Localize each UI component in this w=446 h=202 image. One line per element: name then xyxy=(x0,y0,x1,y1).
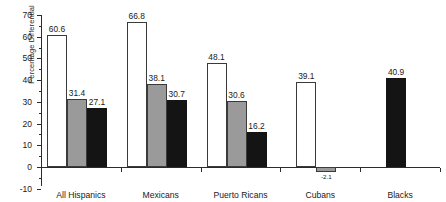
bar-value-label: -2.1 xyxy=(321,173,332,180)
bar-value-label: 66.8 xyxy=(129,11,145,21)
bar xyxy=(296,82,316,167)
y-tick-30: 30 xyxy=(37,102,41,103)
y-tick-label-50: 50 xyxy=(23,53,32,63)
y-tick-label-10: 10 xyxy=(23,140,32,150)
y-tick-minor-45 xyxy=(39,69,41,70)
plot-area: 706050403020100-10 60.631.427.166.838.13… xyxy=(41,15,440,186)
y-tick-60: 60 xyxy=(37,37,41,38)
group-label-puerto-ricans: Puerto Ricans xyxy=(214,190,268,200)
y-tick-50: 50 xyxy=(37,58,41,59)
x-tick-2 xyxy=(201,168,202,172)
bar xyxy=(207,63,227,167)
y-tick-10: 10 xyxy=(37,145,41,146)
bar-value-label: 30.7 xyxy=(169,89,185,99)
y-tick-minor-35 xyxy=(39,91,41,92)
bar xyxy=(147,84,167,167)
x-tick-0 xyxy=(41,168,42,172)
x-tick-1 xyxy=(121,168,122,172)
y-tick-minor-5 xyxy=(39,156,41,157)
y-tick-40: 40 xyxy=(37,80,41,81)
y-tick-label-60: 60 xyxy=(23,32,32,42)
group-label-mexicans: Mexicans xyxy=(143,190,179,200)
bar-value-label: 16.2 xyxy=(248,121,264,131)
bar xyxy=(247,132,267,167)
y-tick-label-30: 30 xyxy=(23,97,32,107)
group-label-cubans: Cubans xyxy=(305,190,335,200)
y-tick-minor-25 xyxy=(39,113,41,114)
x-tick-5 xyxy=(440,168,441,172)
y-tick-20: 20 xyxy=(37,124,41,125)
group-label-all-hispanics: All Hispanics xyxy=(56,190,105,200)
bar-value-label: 27.1 xyxy=(89,97,105,107)
y-tick-minor-55 xyxy=(39,48,41,49)
bar-value-label: 48.1 xyxy=(208,52,224,62)
bar-value-label: 38.1 xyxy=(149,73,165,83)
y-tick-label-20: 20 xyxy=(23,119,32,129)
y-axis-line xyxy=(41,15,42,186)
bar-value-label: 30.6 xyxy=(228,90,244,100)
y-tick-minor--5 xyxy=(39,178,41,179)
y-tick-label-70: 70 xyxy=(23,10,32,20)
y-tick-label-0: 0 xyxy=(27,162,32,172)
bar-chart: Percentage Differential 706050403020100-… xyxy=(0,0,446,202)
y-tick-minor-65 xyxy=(39,26,41,27)
bar xyxy=(87,108,107,167)
bar-value-label: 60.6 xyxy=(49,24,65,34)
bar xyxy=(227,101,247,167)
x-tick-4 xyxy=(360,168,361,172)
group-label-blacks: Blacks xyxy=(387,190,412,200)
bar-value-label: 40.9 xyxy=(388,67,404,77)
bar xyxy=(316,167,336,172)
y-tick-minor-15 xyxy=(39,134,41,135)
bar xyxy=(127,22,147,167)
bar-value-label: 39.1 xyxy=(298,71,314,81)
x-axis-line xyxy=(41,167,440,168)
bar xyxy=(67,99,87,167)
bar xyxy=(167,100,187,167)
bar-value-label: 31.4 xyxy=(69,88,85,98)
bar xyxy=(386,78,406,167)
y-tick-label--10: -10 xyxy=(20,184,32,194)
y-tick-label-40: 40 xyxy=(23,75,32,85)
x-tick-3 xyxy=(280,168,281,172)
bar xyxy=(47,35,67,167)
y-tick--10: -10 xyxy=(37,189,41,190)
y-tick-70: 70 xyxy=(37,15,41,16)
